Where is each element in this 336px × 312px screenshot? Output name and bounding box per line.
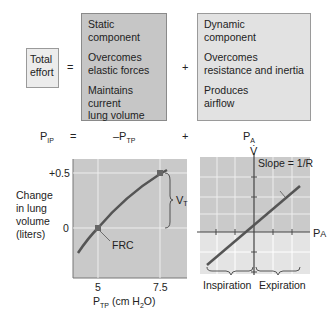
inspiration-label: Inspiration: [203, 279, 252, 291]
pa-axis-label: PA: [313, 227, 326, 239]
frc-point: [95, 225, 101, 231]
slope-label: Slope = 1/R: [258, 157, 314, 169]
expiration-label: Expiration: [259, 279, 306, 291]
frc-label: FRC: [112, 239, 134, 251]
charts-svg: FRC VT Slope = 1/R V̇ PA Inspiration Ex: [0, 0, 336, 312]
vt-top-point: [157, 170, 163, 176]
flow-axis-label: V̇: [250, 145, 258, 157]
